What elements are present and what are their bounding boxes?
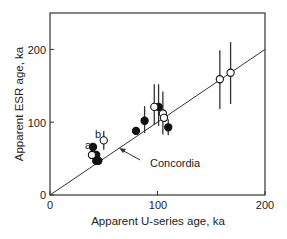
x-tick-100: 100 <box>149 199 167 211</box>
x-tick-0: 0 <box>47 199 53 211</box>
label-a: a <box>85 139 92 151</box>
error-bars <box>104 42 231 150</box>
open-data-point <box>151 103 158 110</box>
data-points <box>88 69 234 164</box>
filled-data-point <box>141 117 148 124</box>
open-data-point <box>216 76 223 83</box>
scatter-chart: a b Concordia 0 100 200 0 100 200 Appare… <box>0 0 287 239</box>
filled-data-point <box>132 127 139 134</box>
y-tick-200: 200 <box>28 44 46 56</box>
concordia-arrow <box>122 150 140 160</box>
open-data-point <box>88 151 95 158</box>
filled-data-point <box>165 124 172 131</box>
x-axis-label: Apparent U-series age, ka <box>91 215 225 227</box>
y-tick-100: 100 <box>28 117 46 129</box>
open-data-point <box>100 137 107 144</box>
filled-data-point <box>95 157 102 164</box>
open-data-point <box>160 114 167 121</box>
label-b: b <box>95 128 101 140</box>
arrowhead-icon <box>119 148 126 153</box>
y-tick-0: 0 <box>40 189 46 201</box>
concordia-label: Concordia <box>150 157 201 169</box>
y-axis-label: Apparent ESR age, ka <box>13 46 25 161</box>
x-tick-200: 200 <box>256 199 274 211</box>
open-data-point <box>227 69 234 76</box>
